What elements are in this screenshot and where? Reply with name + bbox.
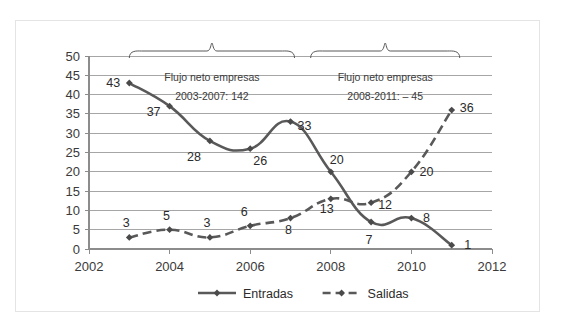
value-label-salidas-2010: 20 <box>419 165 433 179</box>
y-tick-label-30: 30 <box>66 126 80 141</box>
marker-entradas-2010 <box>408 215 415 222</box>
value-label-entradas-2008: 20 <box>330 153 344 167</box>
y-axis-tick-labels: 05101520253035404550 <box>66 49 80 257</box>
value-label-entradas-2005: 28 <box>187 150 201 164</box>
value-label-salidas-2008: 13 <box>320 202 334 216</box>
legend-label-salidas: Salidas <box>368 287 409 301</box>
y-tick-label-20: 20 <box>66 164 80 179</box>
value-label-entradas-2006: 26 <box>253 154 267 168</box>
y-tick-label-45: 45 <box>66 68 80 83</box>
y-tick-label-50: 50 <box>66 49 80 64</box>
y-tick-label-25: 25 <box>66 145 80 160</box>
data-value-labels: 4337282633207813536813122036 <box>106 76 473 252</box>
line-chart: 05101520253035404550 2002200420062008201… <box>16 21 541 313</box>
x-tick-label-2012: 2012 <box>478 259 507 274</box>
y-tick-label-0: 0 <box>73 242 80 257</box>
legend-marker-salidas <box>338 290 345 297</box>
legend-marker-entradas <box>214 290 221 297</box>
chart-legend: EntradasSalidas <box>198 287 409 301</box>
value-label-salidas-2007: 8 <box>285 223 292 237</box>
y-tick-label-35: 35 <box>66 106 80 121</box>
x-tick-label-2004: 2004 <box>155 259 184 274</box>
value-label-entradas-2003: 43 <box>106 76 120 90</box>
annotation-right-line1: Flujo neto empresas <box>338 71 433 83</box>
y-tick-label-40: 40 <box>66 87 80 102</box>
marker-entradas-2007 <box>287 118 294 125</box>
y-tick-label-10: 10 <box>66 203 80 218</box>
marker-salidas-2007 <box>287 215 294 222</box>
marker-salidas-2004 <box>166 226 173 233</box>
y-tick-label-5: 5 <box>73 222 80 237</box>
legend-label-entradas: Entradas <box>243 287 293 301</box>
y-tick-label-15: 15 <box>66 184 80 199</box>
value-label-entradas-2010: 8 <box>423 211 430 225</box>
annotation-right-line2: 2008-2011: – 45 <box>347 90 423 102</box>
value-label-entradas-2007: 33 <box>298 119 312 133</box>
chart-frame: 05101520253035404550 2002200420062008201… <box>15 20 540 312</box>
value-label-salidas-2009: 12 <box>378 198 392 212</box>
x-tick-label-2006: 2006 <box>236 259 265 274</box>
x-axis-tick-labels: 200220042006200820102012 <box>75 259 507 274</box>
x-tick-label-2010: 2010 <box>397 259 426 274</box>
value-label-salidas-2003: 3 <box>123 216 130 230</box>
value-label-salidas-2005: 3 <box>203 216 210 230</box>
annotation-left-line2: 2003-2007: 142 <box>175 90 249 102</box>
marker-salidas-2011 <box>448 107 455 114</box>
value-label-entradas-2004: 37 <box>147 105 161 119</box>
x-tick-label-2008: 2008 <box>316 259 345 274</box>
value-label-salidas-2006: 6 <box>241 205 248 219</box>
marker-salidas-2009 <box>368 199 375 206</box>
value-label-entradas-2009: 7 <box>366 233 373 247</box>
x-tick-label-2002: 2002 <box>75 259 104 274</box>
value-label-salidas-2004: 5 <box>163 209 170 223</box>
marker-salidas-2005 <box>207 234 214 241</box>
marker-entradas-2006 <box>247 145 254 152</box>
marker-salidas-2006 <box>247 222 254 229</box>
annotation-left-line1: Flujo neto empresas <box>164 71 259 83</box>
value-label-entradas-2011: 1 <box>464 238 471 252</box>
marker-salidas-2003 <box>126 234 133 241</box>
value-label-salidas-2011: 36 <box>460 101 474 115</box>
